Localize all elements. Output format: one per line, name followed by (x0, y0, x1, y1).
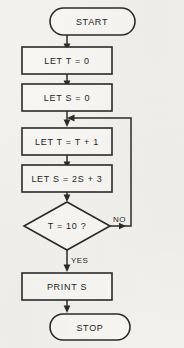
branch-label-no: NO (113, 215, 126, 224)
flowchart-canvas: START LET T = 0 LET S = 0 LET T = T + 1 … (0, 0, 184, 348)
node-init-s: LET S = 0 (22, 84, 112, 111)
node-update-s-label: LET S = 2S + 3 (31, 174, 102, 184)
branch-label-yes: YES (71, 256, 88, 265)
node-stop-label: STOP (76, 323, 103, 333)
node-incr-t: LET T = T + 1 (22, 128, 112, 155)
node-print-s: PRINT S (22, 273, 112, 300)
node-init-t-label: LET T = 0 (44, 56, 90, 66)
connector-decision-yes-to-print (64, 250, 71, 272)
node-decision-test-t: T = 10 ? (24, 202, 110, 250)
node-incr-t-label: LET T = T + 1 (35, 137, 99, 147)
flowchart-svg: START LET T = 0 LET S = 0 LET T = T + 1 … (0, 0, 184, 348)
node-init-t: LET T = 0 (22, 47, 112, 74)
connector-update-s-to-decision (64, 192, 71, 202)
connector-print-to-stop (64, 300, 71, 313)
node-print-s-label: PRINT S (47, 282, 87, 292)
node-stop: STOP (50, 314, 130, 340)
node-update-s: LET S = 2S + 3 (22, 165, 112, 192)
node-start-label: START (76, 17, 108, 27)
node-decision-label: T = 10 ? (48, 221, 87, 231)
node-init-s-label: LET S = 0 (44, 93, 90, 103)
node-start: START (50, 8, 135, 35)
